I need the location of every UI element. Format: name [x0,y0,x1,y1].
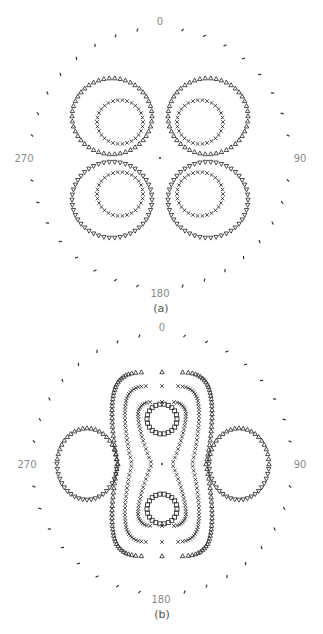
triangle-up-marker [144,94,148,98]
triangle-down-marker [141,222,145,226]
triangle-up-marker [141,138,145,142]
triangle-down-marker [144,178,148,182]
angle-tick [117,340,118,343]
triangle-up-marker [146,99,150,103]
triangle-down-marker [169,213,173,217]
triangle-up-marker [70,119,74,123]
x-marker [100,107,104,111]
angle-label-270-b: 270 [17,459,36,470]
x-marker [124,399,128,403]
x-marker [197,499,201,503]
x-marker [130,173,134,177]
triangle-up-marker [111,495,115,499]
x-marker [194,482,198,486]
triangle-up-marker [187,148,191,152]
x-marker [201,142,205,146]
angle-tick [226,351,229,352]
x-marker [197,426,201,430]
x-marker [146,473,150,477]
triangle-down-marker [91,165,95,169]
x-marker [121,142,125,146]
triangle-up-marker [186,370,190,374]
x-marker [149,460,153,464]
angle-tick [183,335,185,337]
triangle-down-marker [167,208,171,212]
square-marker [174,421,178,425]
x-marker [192,469,196,473]
triangle-up-marker [60,442,64,446]
triangle-down-marker [85,498,89,502]
x-marker [221,192,225,196]
triangle-up-marker [110,508,114,512]
x-marker [219,111,223,115]
x-marker [103,209,107,213]
triangle-down-marker [244,208,248,212]
triangle-down-marker [264,477,268,481]
x-marker [197,502,201,506]
x-marker [176,197,180,201]
triangle-up-marker [210,504,214,508]
x-marker [183,421,187,425]
triangle-up-marker [207,387,211,391]
x-marker [97,111,101,115]
triangle-up-marker [73,99,77,103]
x-marker [173,456,177,460]
triangle-down-marker [107,160,111,164]
x-marker [179,439,183,443]
triangle-up-marker [237,426,241,430]
x-marker [141,120,145,124]
triangle-down-marker [146,183,150,187]
x-marker [175,473,179,477]
triangle-up-marker [137,86,141,90]
triangle-down-marker [266,467,270,471]
triangle-up-marker [112,438,116,442]
triangle-down-marker [228,497,232,501]
triangle-down-marker [71,208,75,212]
triangle-down-marker [141,174,145,178]
x-marker [141,485,145,489]
x-marker [195,486,199,490]
triangle-down-marker [58,477,62,481]
x-marker [197,506,201,510]
triangle-up-marker [198,151,202,155]
angle-tick [33,440,35,442]
x-marker [97,201,101,205]
triangle-up-marker [244,104,248,108]
x-marker [210,173,214,177]
center-dot [161,463,163,465]
triangle-up-marker [79,90,83,94]
triangle-down-marker [55,462,59,466]
triangle-up-marker [207,457,211,461]
angle-tick [49,398,50,401]
x-marker [124,495,128,499]
x-marker [175,451,179,455]
triangle-up-marker [209,495,213,499]
x-marker [97,183,101,187]
triangle-down-marker [241,498,245,502]
x-marker [196,495,200,499]
square-marker [158,432,162,436]
triangle-up-marker [198,77,202,81]
x-marker [180,489,184,493]
x-marker [111,99,115,103]
x-marker [179,485,183,489]
triangle-down-marker [73,183,77,187]
triangle-up-marker [203,76,207,80]
angle-tick [182,285,183,288]
x-marker [195,438,199,442]
triangle-down-marker [172,178,176,182]
triangle-down-marker [187,232,191,236]
triangle-up-marker [237,138,241,142]
triangle-down-marker [149,193,153,197]
triangle-up-marker [209,499,213,503]
square-marker [162,432,166,436]
triangle-down-marker [96,234,100,238]
x-marker [160,540,164,544]
triangle-down-marker [91,232,95,236]
x-marker [171,460,175,464]
triangle-up-marker [82,142,86,146]
x-marker [130,101,134,105]
triangle-down-marker [209,236,213,240]
triangle-down-marker [229,229,233,233]
x-marker [196,98,200,102]
